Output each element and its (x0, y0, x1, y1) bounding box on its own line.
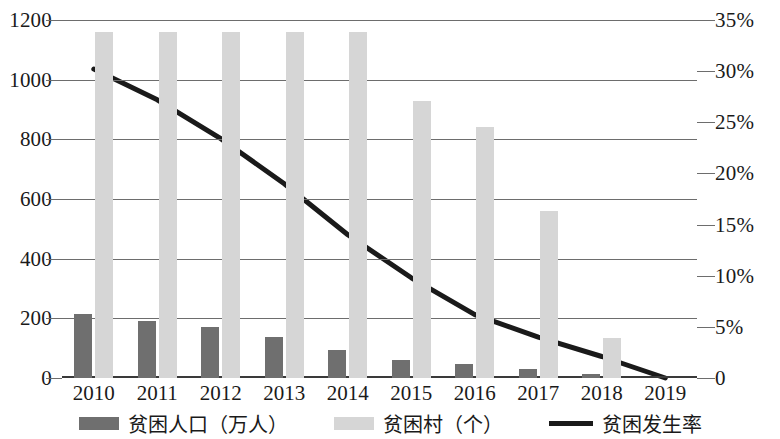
y-axis-right-tick-mark (697, 20, 715, 21)
bar-poverty-population (201, 327, 219, 378)
y-axis-right-tick-mark (697, 173, 715, 174)
bar-poverty-village (222, 32, 240, 378)
bar-poverty-village (286, 32, 304, 378)
bar-group (328, 20, 367, 378)
y-axis-left-tick-mark (46, 20, 62, 21)
plot-area (62, 20, 697, 378)
x-axis-tick-label: 2019 (644, 381, 686, 406)
y-axis-right-tick-label: 35% (715, 8, 780, 33)
y-axis-left-tick-mark (46, 139, 62, 140)
x-axis-tick-label: 2012 (200, 381, 242, 406)
y-axis-left-tick-label: 800 (0, 127, 52, 152)
y-axis-right-tick-mark (697, 71, 715, 72)
bar-poverty-population (74, 314, 92, 378)
bar-group (582, 20, 621, 378)
bar-poverty-population (392, 360, 410, 378)
y-axis-right-tick-label: 0 (715, 366, 780, 391)
y-axis-right-tick-label: 25% (715, 110, 780, 135)
legend-label: 贫困发生率 (602, 409, 702, 438)
bar-group (201, 20, 240, 378)
bar-group (646, 20, 685, 378)
bar-poverty-population (582, 374, 600, 378)
bar-group (74, 20, 113, 378)
y-axis-left-tick-label: 1000 (0, 67, 52, 92)
legend-item[interactable]: 贫困发生率 (549, 409, 702, 438)
y-axis-left-tick-mark (46, 378, 62, 379)
poverty-rate-polyline (94, 69, 666, 378)
y-axis-left-tick-label: 1200 (0, 8, 52, 33)
legend-label: 贫困村（个） (383, 409, 503, 438)
bar-poverty-village (349, 32, 367, 378)
chart-legend: 贫困人口（万人）贫困村（个）贫困发生率 (0, 409, 780, 438)
y-axis-right-tick-mark (697, 122, 715, 123)
bar-poverty-village (413, 101, 431, 378)
light-bar-swatch-icon (334, 417, 374, 430)
x-axis-tick-label: 2018 (581, 381, 623, 406)
bar-group (392, 20, 431, 378)
bar-poverty-population (265, 337, 283, 378)
legend-item[interactable]: 贫困人口（万人） (79, 409, 288, 438)
x-axis-tick-label: 2013 (263, 381, 305, 406)
bar-poverty-village (540, 211, 558, 378)
bar-poverty-population (519, 369, 537, 378)
bar-group (455, 20, 494, 378)
bar-poverty-population (455, 364, 473, 378)
legend-item[interactable]: 贫困村（个） (334, 409, 503, 438)
y-axis-left-tick-label: 400 (0, 246, 52, 271)
chart-figure: 02004006008001000120005%10%15%20%25%30%3… (0, 0, 780, 439)
dark-bar-swatch-icon (79, 417, 119, 430)
y-axis-right-tick-mark (697, 327, 715, 328)
x-axis-tick-label: 2011 (137, 381, 178, 406)
y-axis-right-tick-mark (697, 225, 715, 226)
y-axis-left-tick-label: 200 (0, 306, 52, 331)
y-axis-right-tick-mark (697, 276, 715, 277)
legend-label: 贫困人口（万人） (128, 409, 288, 438)
x-axis-tick-label: 2016 (454, 381, 496, 406)
y-axis-right-tick-label: 20% (715, 161, 780, 186)
line-swatch-icon (549, 421, 593, 426)
bar-poverty-village (603, 338, 621, 378)
y-axis-right-tick-label: 30% (715, 59, 780, 84)
y-axis-left-tick-mark (46, 199, 62, 200)
x-axis-tick-label: 2014 (327, 381, 369, 406)
y-axis-left-tick-label: 0 (0, 366, 52, 391)
y-axis-right-tick-label: 10% (715, 263, 780, 288)
bar-poverty-village (95, 32, 113, 378)
bar-group (519, 20, 558, 378)
x-axis-tick-label: 2017 (517, 381, 559, 406)
y-axis-right-tick-label: 5% (715, 314, 780, 339)
bar-poverty-population (138, 321, 156, 378)
bar-poverty-population (328, 350, 346, 378)
x-axis-tick-label: 2010 (73, 381, 115, 406)
bar-group (138, 20, 177, 378)
y-axis-left-tick-label: 600 (0, 187, 52, 212)
bar-poverty-village (159, 32, 177, 378)
y-axis-right-tick-mark (697, 378, 715, 379)
x-axis-tick-label: 2015 (390, 381, 432, 406)
bar-group (265, 20, 304, 378)
y-axis-left-tick-mark (46, 259, 62, 260)
bar-poverty-village (476, 127, 494, 378)
y-axis-left-tick-mark (46, 80, 62, 81)
y-axis-left-tick-mark (46, 318, 62, 319)
y-axis-right-tick-label: 15% (715, 212, 780, 237)
